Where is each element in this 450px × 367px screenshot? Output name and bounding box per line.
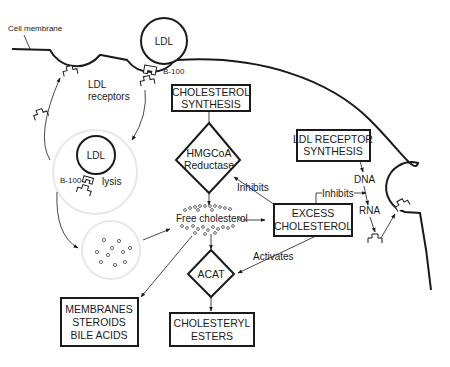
- ldl-cholesterol-diagram: Cell membrane LDL receptors LDL B-100 LD…: [0, 0, 450, 367]
- excess-cholesterol-label-2: CHOLESTEROL: [274, 220, 352, 232]
- activates-label: Activates: [253, 251, 294, 262]
- hmgcoa-label-1: HMGCoA: [187, 147, 232, 159]
- membrane-receptor-right-icon: [393, 197, 410, 212]
- free-cholesterol-label: Free cholesterol: [176, 213, 248, 224]
- lysosome: [82, 221, 140, 279]
- new-receptor-icon: [368, 234, 382, 243]
- bile-acids-label: BILE ACIDS: [70, 329, 127, 341]
- cell-membrane-pointer: [24, 35, 30, 49]
- cell-membrane-label: Cell membrane: [8, 24, 63, 33]
- excess-cholesterol-label-1: EXCESS: [292, 207, 335, 219]
- lysis-label: lysis: [102, 176, 121, 187]
- ldl-receptors-label-1: LDL: [88, 79, 107, 90]
- ldl-receptor-synthesis-label-1: LDL RECEPTOR: [293, 133, 373, 145]
- cholesterol-synthesis-label-1: CHOLESTEROL: [172, 86, 250, 98]
- steroids-label: STEROIDS: [72, 316, 126, 328]
- hmgcoa-label-2: Reductase: [184, 159, 234, 171]
- acat-label: ACAT: [197, 268, 225, 280]
- cholesterol-synthesis-label-2: SYNTHESIS: [181, 98, 241, 110]
- cholesteryl-esters-label-2: ESTERS: [191, 330, 233, 342]
- dna-label: DNA: [354, 174, 375, 185]
- membranes-label: MEMBRANES: [65, 303, 133, 315]
- inhibits-hmgcoa-label: Inhibits: [237, 182, 269, 193]
- ldl-receptor-bound-icon: [140, 75, 155, 86]
- ldl-receptors-label-2: receptors: [88, 91, 130, 102]
- ldl-top-label: LDL: [155, 36, 174, 47]
- inhibits-dna-label: Inhibits: [322, 188, 354, 199]
- ldl-vesicle-label: LDL: [87, 150, 106, 161]
- b100-vesicle-label: B-100: [60, 176, 82, 185]
- cholesteryl-esters-label-1: CHOLESTERYL: [174, 317, 251, 329]
- b100-top-label: B-100: [163, 67, 185, 76]
- rna-label: RNA: [359, 205, 380, 216]
- ldl-receptor-synthesis-label-2: SYNTHESIS: [303, 145, 363, 157]
- b100-protein-icon: [143, 65, 156, 75]
